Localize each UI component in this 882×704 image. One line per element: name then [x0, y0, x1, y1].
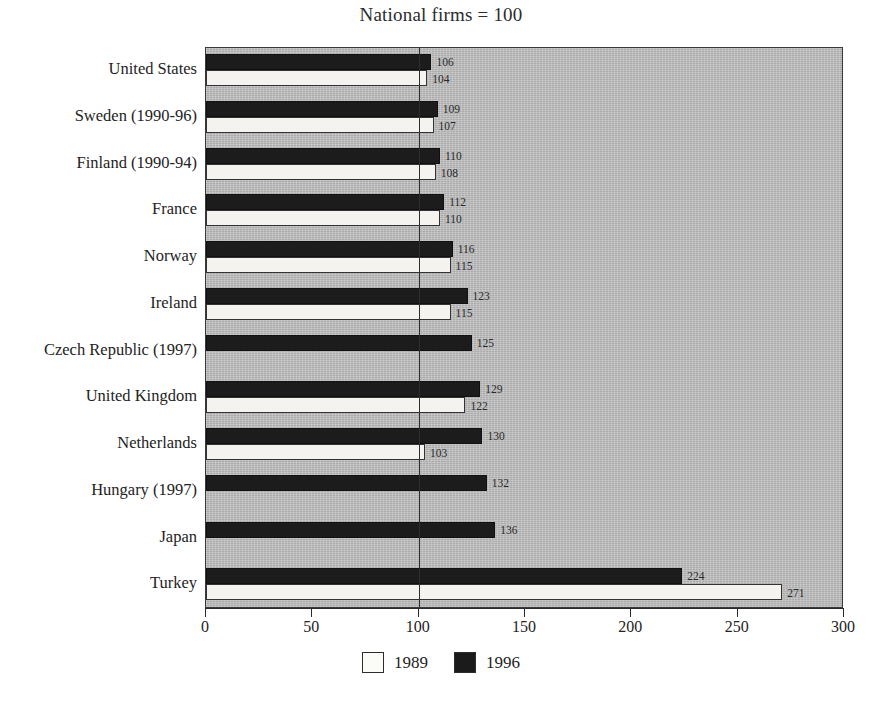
category-label: Sweden (1990-96)	[0, 108, 197, 125]
value-label-1996: 136	[500, 525, 517, 537]
category-label: France	[0, 201, 197, 218]
value-label-1996: 132	[492, 478, 509, 490]
value-label-1989: 107	[439, 121, 456, 133]
bar-1996	[206, 194, 444, 210]
category-label: Ireland	[0, 295, 197, 312]
category-label: Czech Republic (1997)	[0, 342, 197, 359]
x-tick-label: 150	[512, 619, 536, 635]
bar-1996	[206, 475, 487, 491]
category-label: Turkey	[0, 575, 197, 592]
value-label-1996: 112	[449, 197, 466, 209]
chart-title: National firms = 100	[0, 4, 882, 26]
chart-figure: National firms = 100 United StatesSweden…	[0, 0, 882, 704]
bar-1989	[206, 164, 436, 180]
x-axis: 050100150200250300	[205, 608, 843, 648]
category-label: United States	[0, 61, 197, 78]
bar-1989	[206, 257, 451, 273]
legend-entry[interactable]: 1996	[454, 652, 520, 673]
value-label-1989: 110	[445, 214, 462, 226]
bar-1996	[206, 522, 495, 538]
x-tick-label: 0	[201, 619, 209, 635]
category-label: Japan	[0, 529, 197, 546]
x-tick	[311, 608, 312, 617]
bar-1989	[206, 210, 440, 226]
bar-1989	[206, 70, 427, 86]
value-label-1996: 224	[687, 571, 704, 583]
value-label-1996: 125	[477, 338, 494, 350]
bar-1989	[206, 584, 782, 600]
category-label: Hungary (1997)	[0, 482, 197, 499]
bar-1989	[206, 444, 425, 460]
bar-1989	[206, 304, 451, 320]
value-label-1989: 122	[470, 401, 487, 413]
value-label-1996: 130	[487, 431, 504, 443]
plot-area: 1061041091071101081121101161151231151251…	[205, 47, 843, 608]
legend-swatch-1989-icon	[362, 652, 384, 673]
bar-1996	[206, 335, 472, 351]
category-label: United Kingdom	[0, 388, 197, 405]
category-label: Finland (1990-94)	[0, 155, 197, 172]
x-tick	[205, 608, 206, 617]
x-tick-label: 250	[725, 619, 749, 635]
category-label: Norway	[0, 248, 197, 265]
bar-1989	[206, 117, 434, 133]
reference-line-100	[419, 48, 420, 607]
category-axis: United StatesSweden (1990-96)Finland (19…	[0, 47, 197, 608]
x-tick-label: 300	[831, 619, 855, 635]
value-label-1996: 109	[443, 104, 460, 116]
value-label-1989: 108	[441, 168, 458, 180]
x-tick-label: 100	[406, 619, 430, 635]
legend-swatch-1996-icon	[454, 652, 476, 673]
value-label-1989: 271	[787, 588, 804, 600]
legend-label: 1996	[486, 654, 520, 671]
bar-1996	[206, 148, 440, 164]
bar-1989	[206, 397, 465, 413]
value-label-1996: 110	[445, 151, 462, 163]
legend-label: 1989	[394, 654, 428, 671]
bar-1996	[206, 428, 482, 444]
value-label-1996: 106	[436, 57, 453, 69]
x-tick	[418, 608, 419, 617]
x-tick-label: 200	[618, 619, 642, 635]
value-label-1989: 103	[430, 448, 447, 460]
value-label-1989: 104	[432, 74, 449, 86]
legend-entry[interactable]: 1989	[362, 652, 428, 673]
bar-1996	[206, 381, 480, 397]
bar-1996	[206, 568, 682, 584]
x-tick	[630, 608, 631, 617]
bar-1996	[206, 101, 438, 117]
bar-1996	[206, 241, 453, 257]
category-label: Netherlands	[0, 435, 197, 452]
value-label-1989: 115	[456, 261, 473, 273]
x-tick	[524, 608, 525, 617]
bar-1996	[206, 54, 431, 70]
bar-1996	[206, 288, 468, 304]
value-label-1996: 116	[458, 244, 475, 256]
x-tick	[737, 608, 738, 617]
value-label-1996: 129	[485, 384, 502, 396]
x-tick	[843, 608, 844, 617]
chart-legend: 19891996	[0, 652, 882, 673]
value-label-1996: 123	[473, 291, 490, 303]
value-label-1989: 115	[456, 308, 473, 320]
x-tick-label: 50	[303, 619, 319, 635]
